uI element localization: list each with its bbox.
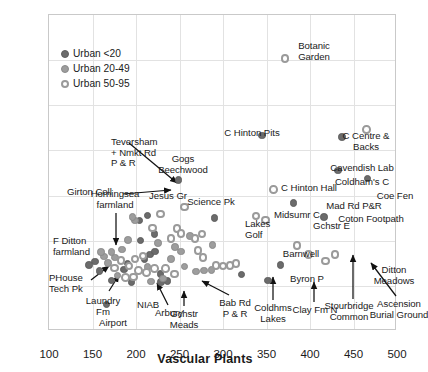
point-label-laundry: Laundry Fm [86,296,120,317]
x-axis-tick-label: 200 [114,349,158,361]
point-label-ditton: Ditton Meadows [374,265,415,286]
point-label-barnwell: Barnwell [283,249,319,260]
data-point[interactable] [96,267,104,275]
data-point[interactable] [177,229,186,238]
x-axis-tick-label: 150 [71,349,115,361]
data-point[interactable] [125,262,134,271]
legend-item-label: Urban <20 [73,47,121,60]
data-point[interactable] [154,239,162,247]
legend-item-1[interactable]: Urban 20-49 [61,62,130,75]
data-point[interactable] [118,246,126,254]
point-label-fditton: F Ditton farmland [53,236,90,257]
data-point[interactable] [85,261,93,269]
point-label-mad_rd: Mad Rd P&R [326,201,381,212]
data-point[interactable] [192,268,200,276]
gridline-horizontal [49,241,395,242]
data-point[interactable] [200,267,208,275]
point-label-coe_fen: Coe Fen [377,191,413,202]
data-point[interactable] [238,271,246,279]
data-point[interactable] [211,214,219,222]
point-label-horningsea: Horningsea farmland [91,189,140,210]
point-label-hinton_hall: C Hinton Hall [281,183,337,194]
x-axis-tick-label: 350 [245,349,289,361]
point-label-airport: Airport [99,318,127,329]
gridline-horizontal [49,286,395,287]
data-point[interactable] [129,273,138,282]
data-point[interactable] [148,224,157,233]
point-label-jesus_gr: Jesus Gr [149,191,187,202]
data-point[interactable] [131,255,140,264]
data-point[interactable] [144,212,152,220]
data-point[interactable] [277,261,285,269]
legend: Urban <20Urban 20-49Urban 50-95 [61,47,130,92]
point-label-ascension: Ascension Burial Ground [370,299,428,320]
point-label-midsumr: Midsumr C [274,210,320,221]
data-point[interactable] [150,264,159,273]
data-point[interactable] [199,253,208,262]
data-point[interactable] [181,263,189,271]
data-point[interactable] [159,275,167,283]
data-point[interactable] [321,257,330,266]
data-point[interactable] [147,278,155,286]
point-label-teversham: Teversham + Nmkt Rd P & R [111,137,157,169]
x-axis-tick-label: 500 [375,349,419,361]
point-label-botanic: Botanic Garden [298,41,330,62]
point-label-bab_rd: Bab Rd P & R [219,298,251,319]
point-label-coton: Coton Footpath [338,214,403,225]
x-axis-tick-label: 400 [288,349,332,361]
data-point[interactable] [97,248,105,256]
data-point[interactable] [137,237,145,245]
legend-marker-icon [61,50,69,58]
gridline-horizontal [49,105,395,106]
point-label-gchstr_meads: Gchstr Meads [170,309,199,330]
point-label-phouse: PHouse Tech Pk [49,273,83,294]
point-label-coldhms_lakes: Coldhms Lakes [254,303,292,324]
legend-item-2[interactable]: Urban 50-95 [61,77,130,90]
legend-item-0[interactable]: Urban <20 [61,47,130,60]
data-point[interactable] [177,248,185,256]
legend-item-label: Urban 50-95 [73,77,130,90]
point-label-science_pk: Science Pk [187,197,235,208]
x-axis-tick-label: 450 [332,349,376,361]
plot-area: 1009080706050403010015020025030035040045… [48,14,396,330]
point-label-coldhams_c: Coldham's C [335,177,389,188]
point-label-byron: Byron P [290,274,324,285]
x-axis-tick-label: 100 [27,349,71,361]
legend-marker-icon [61,65,69,73]
data-point[interactable] [167,234,176,243]
point-label-ccentre: C Centre & Backs [343,131,390,152]
data-point[interactable] [156,210,165,219]
data-point[interactable] [108,248,116,256]
point-label-stourbridge: Stourbridge Common [324,301,373,322]
x-axis-tick-label: 300 [201,349,245,361]
point-label-hinton_pits: C Hinton Pits [224,128,279,139]
point-label-cavendish: Cavendish Lab [330,163,393,174]
gridline-vertical [136,15,137,329]
data-point[interactable] [281,54,290,63]
gridline-vertical [223,15,224,329]
data-point[interactable] [269,185,278,194]
data-point[interactable] [175,176,183,184]
legend-item-label: Urban 20-49 [73,62,130,75]
data-point[interactable] [198,230,207,239]
data-point[interactable] [232,259,241,268]
data-point[interactable] [331,250,340,259]
data-point[interactable] [290,199,298,207]
data-point[interactable] [110,264,119,273]
x-axis-tick-label: 250 [158,349,202,361]
data-point[interactable] [161,264,170,273]
point-label-lakes_golf: Lakes Golf [245,219,270,240]
point-label-gogs: Gogs Beechwood [158,154,208,175]
legend-marker-icon [61,80,69,88]
data-point[interactable] [170,270,179,279]
data-point[interactable] [264,277,272,285]
data-point[interactable] [209,241,217,249]
data-point[interactable] [167,255,175,263]
data-point[interactable] [124,236,132,244]
data-point[interactable] [151,248,159,256]
